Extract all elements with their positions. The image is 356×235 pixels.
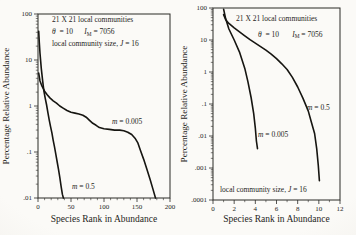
y-tick-label: .001 <box>195 164 208 172</box>
x-tick-label: 150 <box>132 203 143 211</box>
left-rank-abundance-chart: 050100150200100101.1.0121 X 21 local com… <box>0 0 178 235</box>
x-tick-label: 8 <box>296 205 300 213</box>
x-tick-label: 10 <box>315 205 323 213</box>
y-tick-label: 100 <box>197 4 208 12</box>
y-axis: 100101.1.01 <box>22 10 39 202</box>
x-tick-label: 0 <box>211 205 215 213</box>
y-axis-title: Percentage Relative Abundance <box>1 48 11 165</box>
x-tick-label: 200 <box>165 203 176 211</box>
local-size-note: local community size, J = 16 <box>220 185 307 194</box>
y-tick-label: .1 <box>202 100 208 108</box>
y-tick-label: .01 <box>23 194 32 202</box>
theta-note: θ = 10 IM = 7056 <box>52 27 115 37</box>
y-tick-label: 1 <box>29 102 33 110</box>
communities-note: 21 X 21 local communities <box>52 15 133 24</box>
local-size-note: local community size, J = 16 <box>52 39 139 48</box>
right-rank-abundance-chart: 024681012100101.1.01.001.000121 X 21 loc… <box>178 0 356 235</box>
label-m-0005: m = 0.005 <box>258 130 289 139</box>
x-tick-label: 50 <box>68 203 76 211</box>
x-tick-label: 12 <box>337 205 345 213</box>
x-axis: 024681012 <box>211 200 344 213</box>
y-tick-label: .1 <box>27 148 33 156</box>
label-m-05: m = 0.5 <box>72 182 95 191</box>
y-axis-title: Percentage Relative Abundance <box>179 46 189 163</box>
label-m-0005: m = 0.005 <box>112 117 143 126</box>
y-tick-label: 1 <box>204 68 208 76</box>
x-tick-label: 6 <box>275 205 279 213</box>
x-tick-label: 4 <box>254 205 258 213</box>
y-tick-label: 10 <box>25 56 33 64</box>
figure: 050100150200100101.1.0121 X 21 local com… <box>0 0 356 235</box>
label-m-05: m = 0.5 <box>307 103 330 112</box>
y-axis: 100101.1.01.001.0001 <box>191 4 213 204</box>
series-line-m-0.005 <box>39 73 156 198</box>
x-axis: 050100150200 <box>36 198 176 211</box>
series-line-m-0.005 <box>224 9 258 149</box>
y-tick-label: .01 <box>198 132 207 140</box>
x-tick-label: 2 <box>232 205 236 213</box>
y-tick-label: 10 <box>200 36 208 44</box>
communities-note: 21 X 21 local communities <box>236 14 317 23</box>
y-tick-label: .0001 <box>191 196 207 204</box>
x-axis-title: Species Rank in Abundance <box>51 214 157 224</box>
theta-note: θ = 10 IM = 7056 <box>258 30 323 40</box>
x-tick-label: 100 <box>99 203 110 211</box>
x-axis-title: Species Rank in Abundance <box>223 214 329 224</box>
y-tick-label: 100 <box>22 10 33 18</box>
x-tick-label: 0 <box>36 203 40 211</box>
series-line-m-0.5 <box>224 15 320 181</box>
series-line-m-0.5 <box>39 31 64 198</box>
